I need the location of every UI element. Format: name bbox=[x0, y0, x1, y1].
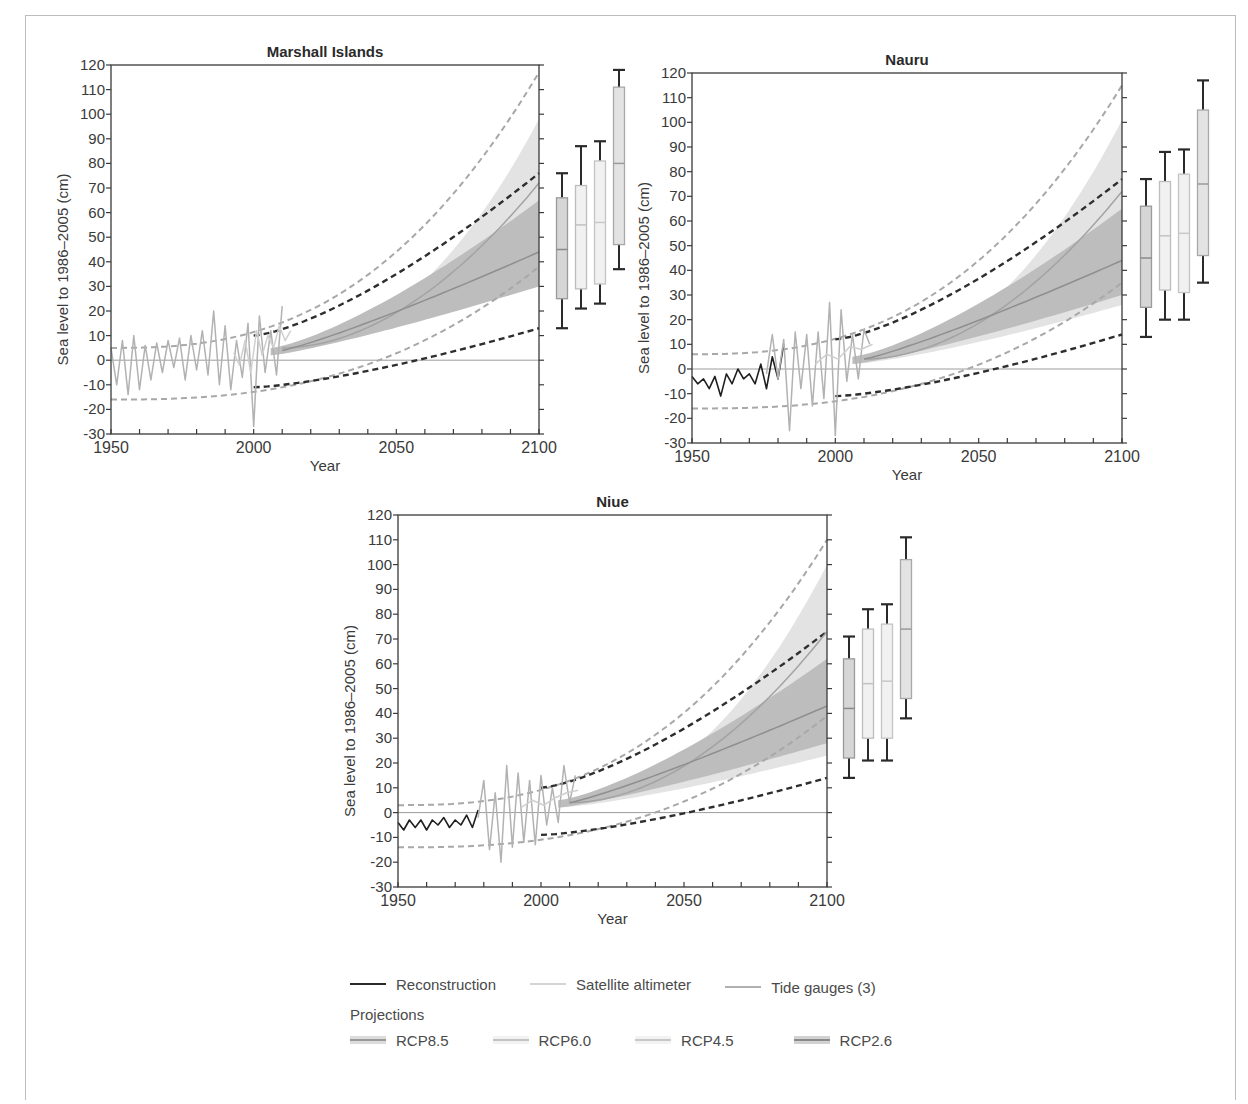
y-tick-label: 70 bbox=[375, 630, 392, 647]
chart-nauru: Nauru1201101009080706050403020100-10-20-… bbox=[635, 51, 1209, 483]
y-tick-label: -20 bbox=[664, 409, 686, 426]
legend-item-rcp45: RCP4.5 bbox=[635, 1032, 734, 1049]
y-tick-label: 110 bbox=[662, 89, 686, 106]
y-tick-label: 20 bbox=[669, 311, 686, 328]
boxplot-rcp45 bbox=[575, 146, 587, 308]
y-tick-label: 0 bbox=[678, 360, 686, 377]
x-tick-label: 1950 bbox=[380, 892, 416, 909]
chart-marshall-islands: Marshall Islands120110100908070605040302… bbox=[54, 43, 625, 474]
x-tick-label: 2100 bbox=[809, 892, 845, 909]
y-tick-label: 70 bbox=[669, 187, 686, 204]
x-tick-label: 2000 bbox=[523, 892, 559, 909]
boxplot-rcp85 bbox=[613, 70, 625, 269]
legend-label: RCP2.6 bbox=[840, 1032, 893, 1049]
legend-label: Tide gauges (3) bbox=[771, 979, 876, 996]
legend-item-rcp26: RCP2.6 bbox=[794, 1032, 893, 1049]
y-tick-label: 10 bbox=[375, 779, 392, 796]
boxplot-rcp45 bbox=[862, 609, 874, 760]
y-tick-label: 90 bbox=[88, 130, 105, 147]
y-tick-label: 60 bbox=[88, 204, 105, 221]
boxplot-rcp26 bbox=[843, 637, 855, 778]
y-tick-label: 60 bbox=[669, 212, 686, 229]
x-axis-label: Year bbox=[892, 466, 922, 483]
legend-item-tide-gauges: Tide gauges (3) bbox=[725, 979, 876, 996]
y-tick-label: 100 bbox=[80, 105, 105, 122]
legend-label: Satellite altimeter bbox=[576, 976, 691, 993]
legend-projections: RCP8.5 RCP6.0 RCP4.5 RCP2.6 bbox=[350, 1026, 930, 1054]
y-tick-label: 110 bbox=[368, 531, 392, 548]
x-tick-label: 2000 bbox=[236, 439, 272, 456]
chart-niue: Niue1201101009080706050403020100-10-20-3… bbox=[341, 493, 912, 927]
tide-gauges-line bbox=[478, 766, 575, 863]
x-tick-label: 2100 bbox=[521, 439, 557, 456]
y-axis-label: Sea level to 1986–2005 (cm) bbox=[341, 625, 358, 817]
y-tick-label: 10 bbox=[669, 335, 686, 352]
reconstruction-line-icon bbox=[350, 983, 386, 985]
y-tick-label: 80 bbox=[88, 154, 105, 171]
x-tick-label: 2050 bbox=[666, 892, 702, 909]
y-tick-label: 100 bbox=[367, 556, 392, 573]
x-tick-label: 2050 bbox=[379, 439, 415, 456]
y-tick-label: 60 bbox=[375, 655, 392, 672]
y-tick-label: 30 bbox=[375, 729, 392, 746]
x-tick-label: 1950 bbox=[93, 439, 129, 456]
y-tick-label: -20 bbox=[370, 853, 392, 870]
boxplot-rcp45 bbox=[1159, 152, 1171, 320]
y-tick-label: -10 bbox=[370, 828, 392, 845]
y-tick-label: 50 bbox=[669, 237, 686, 254]
y-tick-label: -10 bbox=[664, 385, 686, 402]
y-tick-label: 30 bbox=[669, 286, 686, 303]
tide-gauge-line-icon bbox=[725, 986, 761, 988]
chart-title: Nauru bbox=[885, 51, 928, 68]
x-axis-label: Year bbox=[310, 457, 340, 474]
x-tick-label: 2100 bbox=[1104, 448, 1140, 465]
rcp60-band-icon bbox=[493, 1036, 529, 1044]
legend-item-reconstruction: Reconstruction bbox=[350, 976, 496, 993]
x-tick-label: 1950 bbox=[674, 448, 710, 465]
y-tick-label: 90 bbox=[669, 138, 686, 155]
y-tick-label: 80 bbox=[669, 163, 686, 180]
y-tick-label: 40 bbox=[375, 704, 392, 721]
rcp85-band-icon bbox=[350, 1036, 386, 1044]
y-tick-label: 120 bbox=[80, 56, 105, 73]
boxplot-rcp60 bbox=[594, 141, 606, 303]
y-tick-label: 110 bbox=[81, 81, 105, 98]
y-tick-label: 40 bbox=[669, 261, 686, 278]
y-tick-label: 80 bbox=[375, 605, 392, 622]
x-axis-label: Year bbox=[597, 910, 627, 927]
y-tick-label: 120 bbox=[367, 506, 392, 523]
boxplot-rcp85 bbox=[1197, 80, 1209, 282]
y-axis-label: Sea level to 1986–2005 (cm) bbox=[635, 182, 652, 374]
legend-item-satellite-altimeter: Satellite altimeter bbox=[530, 976, 691, 993]
y-tick-label: 30 bbox=[88, 277, 105, 294]
y-tick-label: 0 bbox=[97, 351, 105, 368]
y-tick-label: 0 bbox=[384, 804, 392, 821]
y-tick-label: 90 bbox=[375, 580, 392, 597]
legend-item-rcp60: RCP6.0 bbox=[493, 1032, 592, 1049]
y-tick-label: -10 bbox=[83, 376, 105, 393]
rcp26-band-icon bbox=[794, 1036, 830, 1044]
upper-grey-dashed-line bbox=[111, 72, 539, 348]
y-tick-label: 20 bbox=[88, 302, 105, 319]
legend-label: RCP8.5 bbox=[396, 1032, 449, 1049]
satellite-line-icon bbox=[530, 983, 566, 985]
rcp45-band-icon bbox=[635, 1036, 671, 1044]
chart-title: Marshall Islands bbox=[267, 43, 384, 60]
y-tick-label: 100 bbox=[661, 113, 686, 130]
y-tick-label: 50 bbox=[88, 228, 105, 245]
legend-observations: Reconstruction Satellite altimeter Tide … bbox=[350, 970, 930, 998]
y-tick-label: 50 bbox=[375, 680, 392, 697]
y-tick-label: 120 bbox=[661, 64, 686, 81]
y-tick-label: 20 bbox=[375, 754, 392, 771]
figure-svg: Marshall Islands120110100908070605040302… bbox=[0, 0, 1248, 1104]
y-tick-label: 40 bbox=[88, 253, 105, 270]
boxplot-rcp60 bbox=[1178, 149, 1190, 319]
legend-label: RCP4.5 bbox=[681, 1032, 734, 1049]
legend-label: RCP6.0 bbox=[539, 1032, 592, 1049]
legend-item-rcp85: RCP8.5 bbox=[350, 1032, 449, 1049]
y-tick-label: -20 bbox=[83, 400, 105, 417]
boxplot-rcp26 bbox=[1140, 179, 1152, 337]
boxplot-rcp85 bbox=[900, 537, 912, 718]
legend-label: Reconstruction bbox=[396, 976, 496, 993]
x-tick-label: 2050 bbox=[961, 448, 997, 465]
